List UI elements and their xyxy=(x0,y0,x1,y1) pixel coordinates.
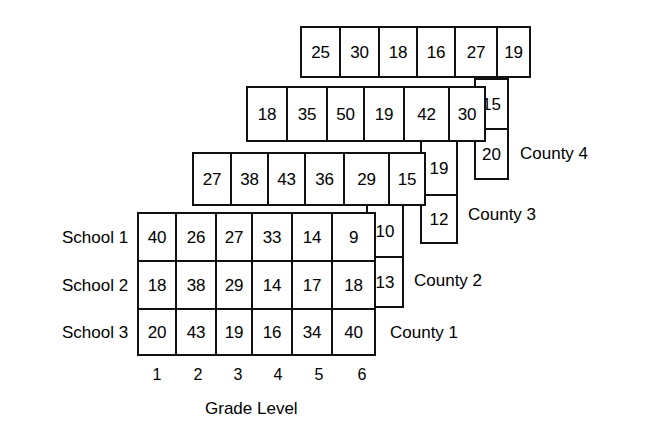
diagram-canvas: 25 30 18 16 27 19 15 20 County 4 18 35 5… xyxy=(0,0,666,445)
row-label-school-1: School 1 xyxy=(62,229,128,246)
cell-c4-r1-g6: 19 xyxy=(496,26,531,78)
x-tick-6: 6 xyxy=(352,366,372,384)
county3-row-1: 18 35 50 19 42 30 xyxy=(246,86,486,142)
cell-c1-s3-g2: 43 xyxy=(175,308,217,356)
cell-c1-s3-g4: 16 xyxy=(251,308,293,356)
cell-c4-r1-g5: 27 xyxy=(454,26,498,78)
county4-row-1: 25 30 18 16 27 19 xyxy=(300,26,531,78)
cell-c4-r1-g3: 18 xyxy=(378,26,418,78)
cell-c2-r1-g3: 43 xyxy=(267,152,306,206)
cell-c4-r1-g2: 30 xyxy=(339,26,380,78)
county1-row-school1: 40 26 27 33 14 9 xyxy=(137,212,376,262)
cell-c1-s3-g3: 19 xyxy=(215,308,253,356)
cell-c1-s3-g6: 40 xyxy=(331,308,376,356)
cell-c2-r1-g6: 15 xyxy=(388,152,426,206)
cell-c3-r1-g1: 18 xyxy=(246,86,288,142)
cell-c1-s2-g3: 29 xyxy=(215,260,253,310)
x-tick-1: 1 xyxy=(147,366,167,384)
row-label-school-3: School 3 xyxy=(62,324,128,341)
cell-c1-s1-g2: 26 xyxy=(175,212,217,262)
cell-c4-r1-g1: 25 xyxy=(300,26,341,78)
cell-c1-s1-g4: 33 xyxy=(251,212,293,262)
cell-c4-r1-g4: 16 xyxy=(416,26,456,78)
layer-label-county-4: County 4 xyxy=(520,145,588,162)
cell-c1-s1-g5: 14 xyxy=(291,212,333,262)
county1-row-school2: 18 38 29 14 17 18 xyxy=(137,260,376,310)
cell-c3-r1-g5: 42 xyxy=(403,86,450,142)
cell-c1-s3-g5: 34 xyxy=(291,308,333,356)
cell-c1-s2-g6: 18 xyxy=(331,260,376,310)
cell-c1-s2-g5: 17 xyxy=(291,260,333,310)
cell-c1-s2-g4: 14 xyxy=(251,260,293,310)
cell-c3-r1-g3: 50 xyxy=(326,86,365,142)
cell-c2-r1-g1: 27 xyxy=(192,152,232,206)
cell-c2-r1-g5: 29 xyxy=(343,152,390,206)
row-label-school-2: School 2 xyxy=(62,277,128,294)
layer-label-county-3: County 3 xyxy=(468,206,536,223)
x-tick-5: 5 xyxy=(309,366,329,384)
layer-label-county-2: County 2 xyxy=(414,272,482,289)
x-axis-title: Grade Level xyxy=(205,399,298,419)
cell-c1-s2-g2: 38 xyxy=(175,260,217,310)
cell-c2-r1-g4: 36 xyxy=(304,152,345,206)
x-tick-3: 3 xyxy=(228,366,248,384)
cell-c2-r1-g2: 38 xyxy=(230,152,269,206)
cell-c3-r1-g6: 30 xyxy=(448,86,486,142)
cell-c1-s3-g1: 20 xyxy=(137,308,177,356)
county1-row-school3: 20 43 19 16 34 40 xyxy=(137,308,376,356)
cell-c1-s1-g3: 27 xyxy=(215,212,253,262)
cell-c1-s1-g6: 9 xyxy=(331,212,376,262)
cell-c1-s2-g1: 18 xyxy=(137,260,177,310)
layer-label-county-1: County 1 xyxy=(390,324,458,341)
cell-c3-r1-g2: 35 xyxy=(286,86,328,142)
cell-c3-r1-g4: 19 xyxy=(363,86,405,142)
county2-row-1: 27 38 43 36 29 15 xyxy=(192,152,426,206)
cell-c1-s1-g1: 40 xyxy=(137,212,177,262)
x-tick-4: 4 xyxy=(268,366,288,384)
x-tick-2: 2 xyxy=(188,366,208,384)
